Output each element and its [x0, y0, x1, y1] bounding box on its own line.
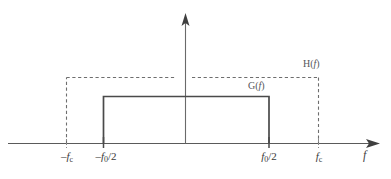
y-axis [182, 13, 190, 144]
g-curve-outline [104, 97, 270, 144]
x-axis [8, 139, 380, 148]
g-curve-label: G(f) [248, 81, 265, 91]
x-axis-label: f [363, 149, 366, 161]
tick-label-neg-f0-rest: /2 [108, 150, 117, 162]
g-curve-solid-rect [104, 97, 270, 144]
tick-label-pos-fc-sub: c [319, 155, 323, 164]
g-curve-label-open: G( [248, 80, 259, 91]
tick-label-pos-f0-half: f0/2 [261, 151, 277, 164]
tick-label-pos-fc: fc [316, 151, 323, 164]
h-curve-label-open: H( [303, 58, 314, 69]
h-curve-label-close: ) [316, 58, 319, 69]
figure-canvas [0, 0, 391, 179]
tick-label-neg-fc-sub: c [70, 155, 74, 164]
h-curve-label: H(f) [303, 59, 320, 69]
tick-label-neg-fc: –fc [61, 151, 73, 164]
tick-label-neg-f0-half: –f0/2 [95, 151, 116, 164]
tick-label-pos-f0-rest: /2 [268, 150, 277, 162]
frequency-spectrum-figure: H(f) G(f) –fc –f0/2 f0/2 fc f [0, 0, 391, 179]
g-curve-label-close: ) [261, 80, 264, 91]
